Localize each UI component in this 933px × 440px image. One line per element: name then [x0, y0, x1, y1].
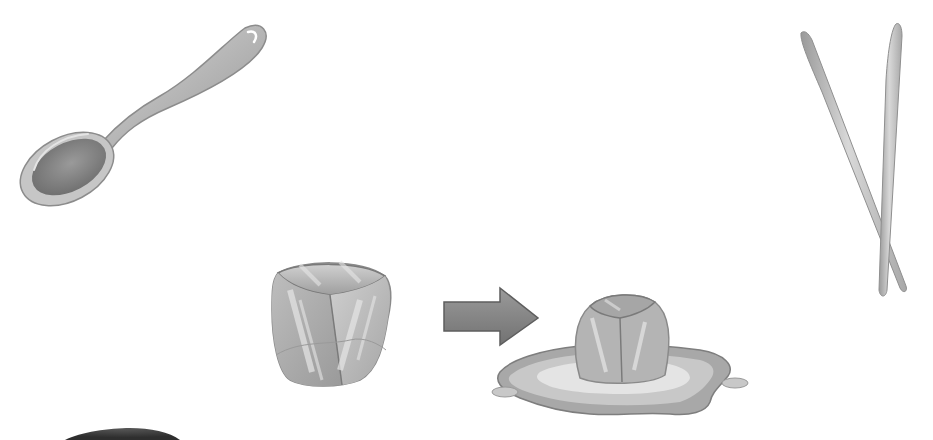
bowl-edge-icon — [65, 428, 180, 440]
arrow-right-icon — [444, 288, 538, 345]
illustration-canvas — [0, 0, 933, 440]
spoon-icon — [8, 25, 266, 220]
ice-cube-icon — [272, 262, 391, 386]
chopsticks-icon — [801, 24, 907, 297]
